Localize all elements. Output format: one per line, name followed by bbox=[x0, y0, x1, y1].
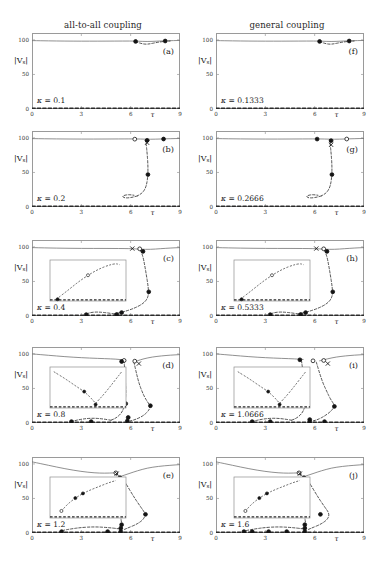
panel-label: (e) bbox=[163, 470, 174, 480]
x-axis-label: τ bbox=[150, 534, 154, 543]
series-line bbox=[60, 527, 119, 532]
inset-axes bbox=[234, 477, 310, 518]
x-tick-label: 6 bbox=[123, 535, 139, 541]
series-line bbox=[86, 312, 114, 314]
data-point-filled-circle bbox=[330, 173, 334, 177]
data-point-open-circle bbox=[133, 359, 137, 363]
y-tick-label: 100 bbox=[199, 244, 213, 250]
kappa-annotation: κ = 1.2 bbox=[37, 520, 65, 529]
y-tick-label: 100 bbox=[199, 37, 213, 43]
x-tick-label: 0 bbox=[24, 535, 40, 541]
kappa-annotation: κ = 0.1 bbox=[37, 96, 65, 105]
inset-axes bbox=[50, 367, 126, 408]
data-point-filled-circle bbox=[240, 298, 243, 301]
data-point-filled-circle bbox=[250, 530, 254, 533]
panel-label: (h) bbox=[346, 253, 358, 263]
panel-label: (d) bbox=[162, 360, 174, 370]
data-point-open-circle bbox=[244, 509, 247, 512]
x-tick-label: 0 bbox=[24, 318, 40, 324]
data-point-filled-circle bbox=[81, 492, 84, 495]
x-tick-label: 3 bbox=[257, 209, 273, 215]
kappa-annotation: κ = 0.2 bbox=[37, 194, 65, 203]
data-point-open-circle bbox=[60, 509, 63, 512]
data-point-filled-circle bbox=[323, 420, 327, 423]
panel-label: (b) bbox=[162, 144, 174, 154]
kappa-annotation: κ = 0.1333 bbox=[221, 96, 264, 105]
data-point-filled-circle bbox=[299, 313, 303, 316]
data-point-filled-circle bbox=[303, 530, 307, 533]
data-point-filled-circle bbox=[134, 40, 138, 44]
data-point-filled-circle bbox=[60, 530, 64, 533]
panel-label: (g) bbox=[346, 144, 358, 154]
data-point-open-circle bbox=[138, 247, 142, 251]
data-point-filled-circle bbox=[315, 137, 319, 141]
y-tick-label: 50 bbox=[199, 278, 213, 284]
x-tick-label: 0 bbox=[208, 425, 224, 431]
x-tick-label: 9 bbox=[172, 425, 188, 431]
x-tick-label: 3 bbox=[257, 318, 273, 324]
data-point-filled-circle bbox=[56, 298, 59, 301]
x-tick-label: 9 bbox=[172, 209, 188, 215]
panel-f: (f)κ = 0.1333|Vs|0501000369τ bbox=[216, 33, 364, 109]
data-point-filled-circle bbox=[267, 390, 270, 393]
y-axis-label: |Vs| bbox=[4, 154, 28, 163]
inset-axes bbox=[234, 260, 310, 301]
y-axis-label: |Vs| bbox=[188, 56, 212, 65]
data-point-filled-circle bbox=[242, 530, 246, 533]
x-axis-label: τ bbox=[334, 208, 338, 217]
panel-a: (a)κ = 0.1|Vs|0501000369τ bbox=[32, 33, 180, 109]
data-point-open-circle bbox=[322, 247, 326, 251]
data-point-filled-circle bbox=[329, 139, 333, 143]
panel-label: (i) bbox=[349, 360, 358, 370]
x-tick-label: 9 bbox=[172, 111, 188, 117]
x-tick-label: 0 bbox=[208, 318, 224, 324]
series-line bbox=[216, 248, 364, 250]
x-axis-label: τ bbox=[334, 424, 338, 433]
x-tick-label: 9 bbox=[356, 535, 369, 541]
panel-b: (b)κ = 0.2|Vs|0501000369τ bbox=[32, 131, 180, 207]
x-tick-label: 0 bbox=[208, 209, 224, 215]
series-line bbox=[131, 362, 150, 421]
data-point-filled-circle bbox=[89, 420, 93, 423]
data-point-filled-circle bbox=[119, 530, 123, 533]
data-point-filled-circle bbox=[115, 313, 119, 316]
series-line bbox=[123, 195, 137, 198]
data-point-filled-circle bbox=[318, 40, 322, 44]
y-axis-label: |Vs| bbox=[4, 370, 28, 379]
data-point-filled-circle bbox=[285, 530, 289, 533]
panel-e: (e)κ = 1.2|Vs|0501000369τ bbox=[32, 457, 180, 533]
x-tick-label: 3 bbox=[73, 111, 89, 117]
y-tick-label: 100 bbox=[199, 135, 213, 141]
series-line bbox=[270, 312, 298, 314]
data-point-cross bbox=[329, 143, 333, 147]
data-point-filled-circle bbox=[83, 390, 86, 393]
data-point-filled-circle bbox=[325, 250, 329, 254]
x-tick-label: 6 bbox=[307, 535, 323, 541]
y-tick-label: 100 bbox=[15, 244, 29, 250]
y-axis-label: |Vs| bbox=[188, 480, 212, 489]
y-tick-label: 100 bbox=[15, 135, 29, 141]
x-tick-label: 6 bbox=[123, 111, 139, 117]
y-axis-label: |Vs| bbox=[188, 263, 212, 272]
column-header-all-to-all: all-to-all coupling bbox=[28, 20, 178, 30]
data-point-filled-circle bbox=[162, 137, 166, 141]
data-point-filled-circle bbox=[333, 405, 337, 409]
series-line bbox=[32, 354, 126, 361]
series-line bbox=[321, 140, 332, 196]
data-point-open-circle bbox=[270, 274, 273, 277]
x-tick-label: 6 bbox=[123, 318, 139, 324]
data-point-open-circle bbox=[345, 137, 349, 141]
x-tick-label: 9 bbox=[356, 425, 369, 431]
data-point-filled-circle bbox=[74, 497, 77, 500]
panel-j: (j)κ = 1.6|Vs|0501000369τ bbox=[216, 457, 364, 533]
y-tick-label: 100 bbox=[15, 37, 29, 43]
kappa-annotation: κ = 0.2666 bbox=[221, 194, 264, 203]
x-axis-label: τ bbox=[334, 317, 338, 326]
kappa-annotation: κ = 1.0666 bbox=[221, 410, 264, 419]
x-tick-label: 0 bbox=[24, 209, 40, 215]
panel-label: (a) bbox=[163, 46, 174, 56]
series-line bbox=[216, 138, 364, 139]
x-axis-label: τ bbox=[150, 110, 154, 119]
data-point-filled-circle bbox=[267, 530, 271, 533]
panel-c: (c)κ = 0.4|Vs|0501000369τ bbox=[32, 240, 180, 316]
